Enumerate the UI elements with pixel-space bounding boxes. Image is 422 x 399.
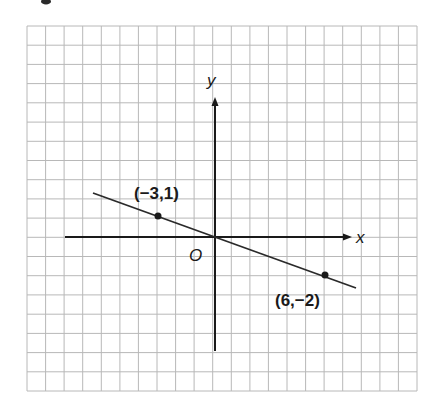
point-6-neg2 [322,272,329,279]
x-axis-arrow-icon [343,234,352,241]
grid [27,26,417,391]
cropped-glyph-fragment [41,0,51,5]
x-axis-label: x [355,228,365,247]
coordinate-plane-figure: (−3,1) (6,−2) x y O [0,0,422,399]
graphed-line [93,193,356,288]
y-axis-label: y [206,71,217,90]
point-neg3-1 [155,213,162,220]
origin-label: O [189,246,202,265]
point-label-neg3-1: (−3,1) [134,184,179,203]
point-label-6-neg2: (6,−2) [275,291,320,310]
